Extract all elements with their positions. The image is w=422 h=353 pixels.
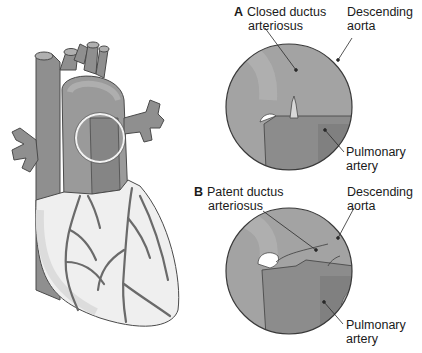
- panel-a-letter: A: [234, 5, 243, 19]
- panel-b-pulmonary-artery-label: Pulmonary artery: [346, 318, 406, 346]
- panel-a-magnified-view: [220, 28, 360, 180]
- heart-illustration: [12, 42, 179, 326]
- diagram-artwork: [0, 0, 422, 353]
- panel-b-letter: B: [194, 185, 203, 199]
- panel-a-pulmonary-artery-label: Pulmonary artery: [346, 145, 406, 173]
- panel-a-descending-aorta-label: Descending aorta: [347, 5, 413, 33]
- panel-b-descending-aorta-label: Descending aorta: [347, 185, 413, 213]
- panel-b-title: BPatent ductus arteriosus: [194, 185, 283, 213]
- panel-b-magnified-view: [220, 200, 362, 340]
- panel-a-title: AClosed ductus arteriosus: [234, 5, 326, 33]
